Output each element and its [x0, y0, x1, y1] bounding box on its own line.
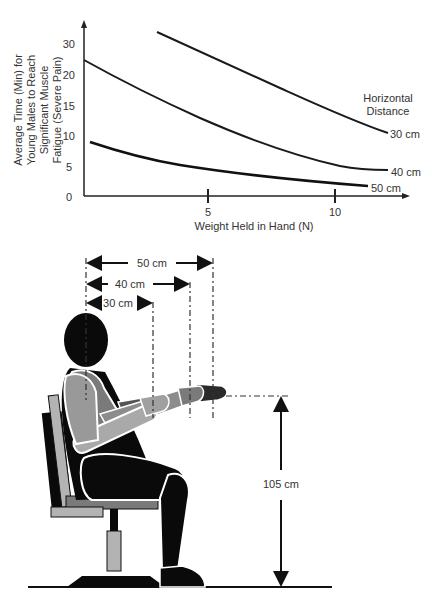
lower-leg: [160, 474, 189, 570]
series-30cm-label: 30 cm: [390, 128, 420, 140]
chair-base: [67, 576, 165, 587]
x-axis-label: Weight Held in Hand (N): [194, 220, 313, 232]
x-tick-label: 5: [205, 206, 211, 218]
series-30cm-line: [157, 32, 388, 133]
legend-title-line: Horizontal: [363, 92, 413, 104]
chart: 0 5 10 15 20 30 5 10 Weight Held in Hand…: [12, 20, 421, 232]
y-tick-label: 30: [63, 38, 75, 50]
figure-caption-clipped: [0, 598, 432, 603]
y-tick-label: 10: [63, 130, 75, 142]
mid-hand: [178, 386, 203, 406]
series-50cm-label: 50 cm: [371, 182, 401, 194]
y-axis-label-line: Average Time (Min) for: [12, 54, 24, 166]
y-axis-arrow-icon: [81, 20, 87, 28]
y-tick-label: 5: [66, 161, 72, 173]
y-axis-label-line: Significant Muscle: [38, 66, 50, 155]
y-axis-label: Average Time (Min) for Young Males to Re…: [12, 54, 63, 166]
chair-cylinder: [107, 531, 121, 571]
dim-40cm-label: 40 cm: [115, 278, 145, 290]
dim-height-label: 105 cm: [263, 478, 299, 490]
legend-title-line: Distance: [367, 105, 410, 117]
chair-stem: [110, 509, 118, 531]
y-tick-label: 20: [63, 69, 75, 81]
figure-canvas: 0 5 10 15 20 30 5 10 Weight Held in Hand…: [0, 0, 432, 603]
x-axis-arrow-icon: [402, 193, 410, 199]
foot: [160, 566, 205, 587]
x-tick-label: 10: [329, 206, 341, 218]
y-tick-label: 15: [63, 100, 75, 112]
series-40cm-label: 40 cm: [391, 166, 421, 178]
y-axis-label-line: Young Males to Reach: [25, 55, 37, 165]
dim-30cm-label: 30 cm: [103, 297, 133, 309]
y-tick-label: 0: [66, 191, 72, 203]
posture-diagram: 50 cm 40 cm 30 cm 105 cm: [28, 257, 332, 587]
dim-50cm-label: 50 cm: [137, 257, 167, 269]
y-axis-label-line: Fatigue (Severe Pain): [51, 57, 63, 164]
chair-armrest: [51, 507, 103, 517]
series-50cm-line: [90, 142, 368, 186]
